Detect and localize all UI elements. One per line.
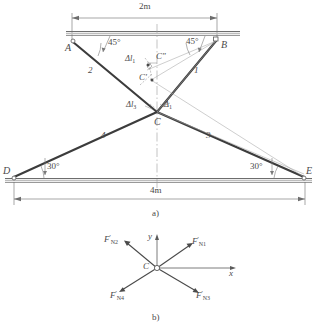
angle-label-A: 45° (108, 38, 121, 47)
dimension-label-top-span: 2m (139, 2, 151, 11)
fbd-force-label-FN4: F'N4 (110, 291, 124, 300)
member-3-bar-CE (157, 112, 304, 177)
fbd-force-label-FN3: F'N3 (196, 291, 210, 300)
pin-marker-B (214, 37, 219, 41)
angle-arc-A (98, 43, 101, 56)
member-label-2: 2 (88, 66, 93, 75)
node-label-E: E (306, 166, 312, 176)
bottom-support-beam (5, 179, 312, 183)
deformation-label-dl3-at-C: Δl3 (126, 100, 136, 109)
angle-label-B: 45° (186, 37, 199, 46)
fbd-force-label-FN2: F'N2 (104, 235, 118, 244)
fbd-vector-FN3 (157, 268, 196, 291)
dim-arrow-right-top (210, 16, 217, 20)
fbd-origin-node (154, 265, 159, 270)
fbd-FN1-subscript: N1 (199, 241, 206, 247)
fbd-FN2-subscript: N2 (111, 239, 118, 245)
node-label-C-prime: C' (139, 73, 147, 82)
fbd-vector-FN1 (157, 245, 190, 268)
figure-caption-b: b) (152, 313, 160, 322)
dim-arrow-left-top (72, 16, 79, 20)
fbd-group (119, 234, 236, 293)
angle-label-D: 30° (47, 162, 60, 171)
d1-subscript: 1 (169, 104, 172, 110)
fbd-vector-FN2 (127, 243, 157, 268)
member-4-bar-DC (14, 112, 157, 177)
fbd-origin-label-C: C (143, 262, 149, 271)
node-label-B: B (221, 40, 227, 50)
angle-label-E: 30° (250, 162, 263, 171)
arc-Cp-to-Cdp (149, 64, 151, 80)
deformation-label-dl1-upper: Δl1 (125, 54, 135, 63)
fbd-FN2-symbol: F (104, 234, 110, 244)
fbd-FN3-subscript: N3 (203, 295, 210, 301)
angle-arrow-E (270, 171, 274, 175)
fbd-vector-FN4 (122, 268, 157, 290)
fbd-FN4-symbol: F (110, 290, 116, 300)
dim-arrow-right-bottom (298, 197, 305, 201)
dimension-label-bottom-span: 4m (150, 186, 162, 195)
constr-line-C-to-E-thin (157, 112, 304, 174)
fbd-FN4-subscript: N4 (117, 295, 124, 301)
node-label-C: C (154, 117, 161, 127)
node-label-A: A (65, 43, 71, 53)
point-marker-C-prime (151, 79, 154, 82)
pin-marker-E (302, 176, 306, 180)
dl3-subscript: 3 (133, 104, 136, 110)
member-label-3: 3 (206, 131, 211, 140)
point-marker-C-double-prime (147, 64, 150, 67)
fbd-FN3-symbol: F (196, 290, 202, 300)
fbd-axis-label-y: y (148, 232, 152, 241)
pin-marker-D (12, 176, 16, 180)
dim-arrow-left-bottom (14, 197, 21, 201)
member-label-1: 1 (194, 66, 199, 75)
pin-marker-A (71, 39, 75, 43)
figure-canvas: 2m 4m A B C D E C' C" 45° 45° 30° 30° 1 … (0, 0, 318, 330)
fbd-axis-label-x: x (229, 269, 233, 278)
member-label-4: 4 (101, 131, 106, 140)
fbd-y-arrowhead (155, 234, 159, 240)
node-label-D: D (3, 166, 10, 176)
angle-arc-E (274, 166, 278, 178)
dl1-upper-subscript: 1 (132, 58, 135, 64)
top-support-beam (66, 32, 240, 36)
constr-line-Cp-to-E (151, 80, 304, 177)
figure-caption-a: a) (152, 209, 159, 218)
node-label-C-double-prime: C" (156, 52, 166, 61)
fbd-FN1-symbol: F (192, 236, 198, 246)
deformation-label-d1-at-C: Δ1 (164, 100, 172, 109)
fbd-force-label-FN1: F'N1 (192, 237, 206, 246)
